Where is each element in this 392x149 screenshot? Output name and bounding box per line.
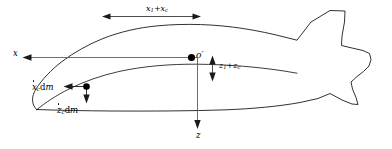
z-dimension-term2-sub: c	[238, 64, 241, 70]
z-dimension-label: z1+zc	[219, 62, 240, 70]
z-dimension-bottom-arrowhead	[209, 73, 215, 82]
z-dimension-top-arrowhead	[209, 56, 215, 65]
xdot-arrowhead	[64, 83, 73, 89]
z-axis-arrowhead	[194, 120, 200, 129]
z-velocity-element-label: zcdm	[57, 106, 78, 115]
x-dimension-term2-sub: c	[165, 7, 168, 13]
x-dimension-label: x1+xc	[146, 5, 168, 13]
z-axis-label: z	[196, 131, 200, 140]
x-axis-arrowhead	[23, 54, 32, 61]
x-axis-label: x	[13, 49, 18, 58]
x-dimension-arrow	[102, 13, 201, 19]
zdot-arrowhead	[83, 95, 89, 104]
x-dimension-right-arrowhead	[193, 13, 202, 19]
zdot-variable: z	[57, 106, 61, 115]
x-velocity-element-label: xcdm	[32, 83, 53, 92]
mass-element-dot	[83, 83, 90, 90]
zdot-mass: m	[70, 105, 78, 115]
aircraft-body-axes-figure: x z o′ x1+xc z1+zc xcdm zcdm	[0, 0, 392, 149]
origin-dot	[188, 54, 195, 61]
z-dimension-arrow	[209, 56, 215, 82]
origin-label: o′	[196, 51, 203, 60]
xdot-mass: m	[45, 82, 53, 92]
figure-canvas	[0, 0, 392, 149]
x-dimension-operator: +	[154, 4, 161, 13]
x-axis	[23, 54, 198, 61]
x-dimension-left-arrowhead	[102, 13, 111, 19]
xdot-variable: x	[32, 83, 37, 92]
z-axis	[194, 58, 200, 130]
aircraft-outline	[33, 11, 372, 112]
